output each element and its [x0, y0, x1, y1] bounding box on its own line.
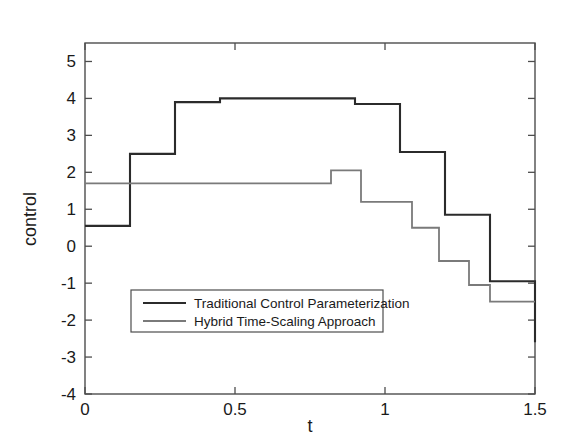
control-step-chart: -4-3-2-1012345 00.511.5 control t Tradit…	[0, 0, 567, 442]
legend-label-traditional: Traditional Control Parameterization	[194, 296, 410, 311]
y-axis-ticks: -4-3-2-1012345	[61, 52, 535, 404]
x-tick-label: 1.5	[523, 400, 547, 419]
y-tick-label: 4	[67, 89, 76, 108]
y-tick-label: 3	[67, 126, 76, 145]
y-tick-label: -4	[61, 385, 76, 404]
legend-label-hybrid: Hybrid Time-Scaling Approach	[194, 314, 376, 329]
y-axis-label: control	[20, 192, 40, 246]
x-tick-label: 1	[380, 400, 389, 419]
y-tick-label: 2	[67, 163, 76, 182]
y-tick-label: 1	[67, 200, 76, 219]
y-tick-label: 0	[67, 237, 76, 256]
series-line-hybrid	[85, 170, 535, 301]
x-axis-label: t	[307, 416, 312, 436]
y-tick-label: -1	[61, 274, 76, 293]
y-tick-label: -3	[61, 348, 76, 367]
plot-frame	[85, 43, 535, 394]
chart-legend: Traditional Control Parameterization Hyb…	[131, 290, 410, 332]
x-tick-label: 0.5	[223, 400, 247, 419]
y-tick-label: 5	[67, 52, 76, 71]
y-tick-label: -2	[61, 311, 76, 330]
chart-figure: -4-3-2-1012345 00.511.5 control t Tradit…	[0, 0, 567, 442]
x-tick-label: 0	[80, 400, 89, 419]
